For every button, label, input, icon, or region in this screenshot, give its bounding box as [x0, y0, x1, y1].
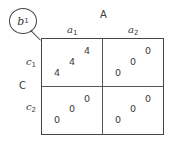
cell-a1c1-value-3: 4 [54, 67, 60, 78]
cell-a1c2-value-1: 0 [84, 93, 90, 104]
cell-a2c2-value-2: 0 [130, 103, 136, 114]
cell-a1c2-value-3: 0 [54, 114, 60, 125]
row-factor-label: C [19, 80, 26, 91]
branch-node-label: b1 [9, 8, 37, 34]
cell-a1c1-value-1: 4 [84, 45, 90, 56]
cell-a2c1-value-2: 0 [130, 56, 136, 67]
col-label-a1: a1 [67, 24, 77, 37]
col-factor-label: A [100, 9, 107, 20]
cell-a1c1-value-2: 4 [69, 56, 75, 67]
col-label-a2: a2 [128, 24, 138, 37]
cell-a2c1-value-3: 0 [115, 67, 121, 78]
cell-a2c1-value-1: 0 [145, 45, 151, 56]
row-label-c2: c2 [26, 101, 36, 114]
cell-a2c2-value-3: 0 [115, 114, 121, 125]
cell-a2c2-value-1: 0 [145, 93, 151, 104]
row-divider [41, 86, 164, 87]
row-label-c1: c1 [26, 56, 36, 69]
cell-a1c2-value-2: 0 [69, 103, 75, 114]
